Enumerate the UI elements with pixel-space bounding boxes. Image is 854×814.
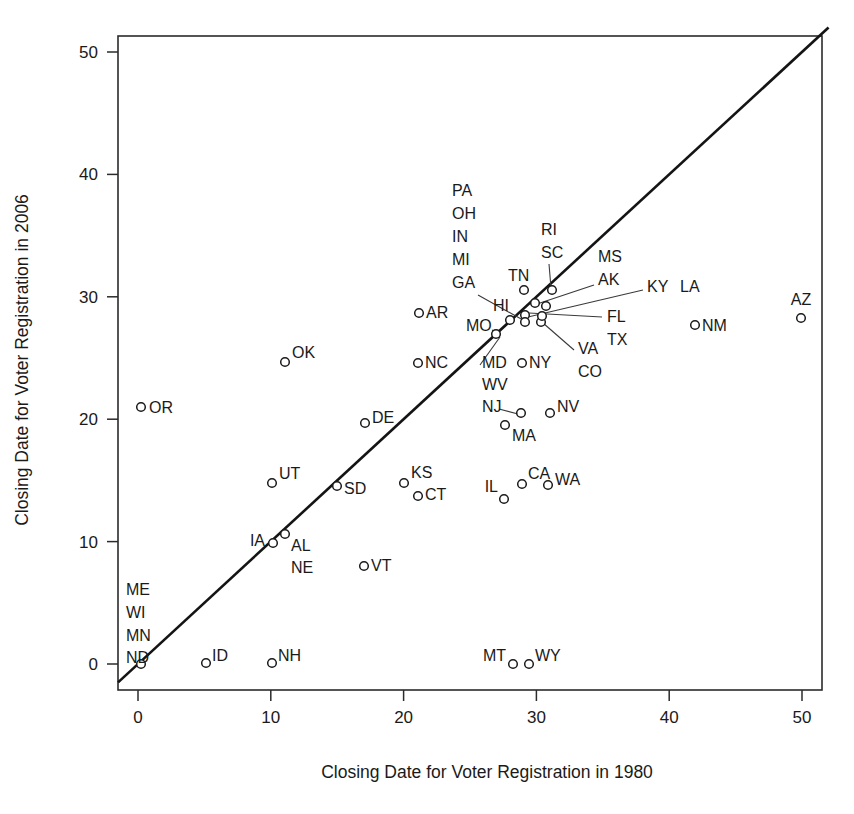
point-label-LA: LA bbox=[680, 278, 700, 295]
marker-MT bbox=[509, 660, 518, 669]
point-label-WV: WV bbox=[482, 376, 508, 393]
point-label-MI: MI bbox=[452, 251, 470, 268]
point-label-VA: VA bbox=[578, 340, 598, 357]
marker-SD bbox=[333, 482, 342, 491]
marker-AZ bbox=[797, 314, 806, 323]
marker-WY bbox=[525, 660, 534, 669]
point-label-GA: GA bbox=[452, 274, 475, 291]
y-tick-label-10: 10 bbox=[79, 533, 98, 552]
point-label-NC: NC bbox=[425, 354, 448, 371]
point-label-AR: AR bbox=[426, 304, 448, 321]
marker-MA bbox=[501, 421, 510, 430]
point-label-NV: NV bbox=[557, 398, 580, 415]
marker-KS bbox=[400, 479, 409, 488]
marker-NM bbox=[691, 321, 700, 330]
marker-IA bbox=[269, 539, 278, 548]
point-label-DE: DE bbox=[372, 409, 394, 426]
marker-OR bbox=[137, 403, 146, 412]
y-tick-label-40: 40 bbox=[79, 165, 98, 184]
marker-AR bbox=[415, 309, 424, 318]
point-label-AZ: AZ bbox=[791, 291, 812, 308]
point-label-OH: OH bbox=[452, 205, 476, 222]
point-label-MN: MN bbox=[126, 627, 151, 644]
point-label-SD: SD bbox=[344, 480, 366, 497]
marker-NY bbox=[518, 359, 527, 368]
marker-core-3 bbox=[531, 299, 540, 308]
plot-svg: 0102030405001020304050 MEWIMNNDORIDNHUTI… bbox=[0, 0, 854, 814]
point-label-MT: MT bbox=[483, 647, 506, 664]
point-label-MO: MO bbox=[466, 317, 492, 334]
point-label-TX: TX bbox=[607, 331, 628, 348]
point-label-MS: MS bbox=[598, 248, 622, 265]
point-label-NH: NH bbox=[278, 647, 301, 664]
point-label-ID: ID bbox=[212, 647, 228, 664]
marker-ID bbox=[202, 659, 211, 668]
point-label-NY: NY bbox=[529, 354, 552, 371]
marker-CA bbox=[518, 480, 527, 489]
point-label-AL: AL bbox=[291, 537, 311, 554]
y-tick-label-20: 20 bbox=[79, 410, 98, 429]
marker-NC bbox=[414, 359, 423, 368]
x-axis-title: Closing Date for Voter Registration in 1… bbox=[321, 762, 653, 782]
point-label-TN: TN bbox=[508, 267, 529, 284]
point-label-MA: MA bbox=[512, 427, 536, 444]
point-label-MD: MD bbox=[482, 354, 507, 371]
marker-DE bbox=[361, 419, 370, 428]
point-label-ND: ND bbox=[126, 649, 149, 666]
scatter-plot-figure: 0102030405001020304050 MEWIMNNDORIDNHUTI… bbox=[0, 0, 854, 814]
point-label-HI: HI bbox=[493, 297, 509, 314]
y-axis-title: Closing Date for Voter Registration in 2… bbox=[12, 194, 32, 526]
point-label-FL: FL bbox=[607, 308, 626, 325]
point-label-IL: IL bbox=[485, 478, 498, 495]
point-label-AK: AK bbox=[598, 271, 620, 288]
point-label-KS: KS bbox=[411, 464, 432, 481]
point-label-WA: WA bbox=[555, 471, 581, 488]
point-label-WY: WY bbox=[535, 647, 561, 664]
point-label-VT: VT bbox=[371, 557, 392, 574]
marker-core-2 bbox=[521, 318, 530, 327]
point-label-NJ: NJ bbox=[482, 398, 502, 415]
x-tick-label-10: 10 bbox=[261, 708, 280, 727]
marker-NJ-MD-WV bbox=[517, 409, 526, 418]
marker-CT bbox=[414, 492, 423, 501]
point-label-ME: ME bbox=[126, 581, 150, 598]
y-tick-label-0: 0 bbox=[89, 655, 98, 674]
marker-NH bbox=[268, 659, 277, 668]
point-label-WI: WI bbox=[126, 604, 146, 621]
point-label-KY: KY bbox=[647, 278, 669, 295]
point-label-IA: IA bbox=[250, 532, 265, 549]
point-label-CO: CO bbox=[578, 363, 602, 380]
point-label-PA: PA bbox=[452, 182, 472, 199]
point-label-IN: IN bbox=[452, 228, 468, 245]
y-tick-label-30: 30 bbox=[79, 288, 98, 307]
marker-core-7 bbox=[548, 286, 557, 295]
x-tick-label-40: 40 bbox=[660, 708, 679, 727]
marker-UT bbox=[268, 479, 277, 488]
point-label-CA: CA bbox=[528, 465, 551, 482]
x-tick-label-0: 0 bbox=[133, 708, 142, 727]
marker-core-6 bbox=[542, 302, 551, 311]
marker-HI bbox=[506, 316, 515, 325]
marker-MO bbox=[492, 330, 501, 339]
x-tick-label-50: 50 bbox=[793, 708, 812, 727]
point-label-OR: OR bbox=[149, 399, 173, 416]
point-label-OK: OK bbox=[292, 344, 315, 361]
point-label-NE: NE bbox=[291, 559, 313, 576]
x-tick-label-20: 20 bbox=[394, 708, 413, 727]
marker-VT bbox=[360, 562, 369, 571]
point-label-SC: SC bbox=[541, 244, 563, 261]
marker-core-5 bbox=[538, 312, 547, 321]
marker-OK bbox=[281, 358, 290, 367]
point-label-NM: NM bbox=[702, 317, 727, 334]
marker-IL bbox=[500, 495, 509, 504]
point-label-RI: RI bbox=[541, 221, 557, 238]
y-tick-label-50: 50 bbox=[79, 43, 98, 62]
x-tick-label-30: 30 bbox=[527, 708, 546, 727]
marker-TN bbox=[520, 286, 529, 295]
point-label-UT: UT bbox=[279, 465, 301, 482]
marker-AL bbox=[281, 530, 290, 539]
marker-NV bbox=[546, 409, 555, 418]
point-label-CT: CT bbox=[425, 486, 447, 503]
